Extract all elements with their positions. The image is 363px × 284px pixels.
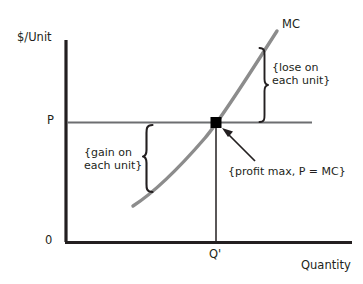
profit-max-marker [211, 117, 222, 128]
mc-curve-label: MC [282, 18, 300, 32]
y-axis-title: $/Unit [17, 31, 52, 45]
marginal-cost-chart: $/Unit P 0 Q' Quantity MC {lose on each … [0, 0, 363, 284]
lose-on-each-unit-note: {lose on each unit} [272, 62, 330, 88]
profit-max-arrow-head [222, 128, 233, 137]
chart-canvas [0, 0, 363, 284]
price-tick-label: P [47, 114, 54, 128]
gain-brace-icon [143, 125, 153, 192]
quantity-tick-label: Q' [209, 248, 221, 262]
origin-label: 0 [45, 234, 52, 248]
x-axis-title: Quantity [301, 259, 351, 273]
profit-max-note: {profit max, P = MC} [228, 166, 346, 179]
mc-curve [133, 31, 277, 206]
gain-on-each-unit-note: {gain on each unit} [84, 147, 142, 173]
profit-max-arrow-shaft [227, 133, 255, 161]
